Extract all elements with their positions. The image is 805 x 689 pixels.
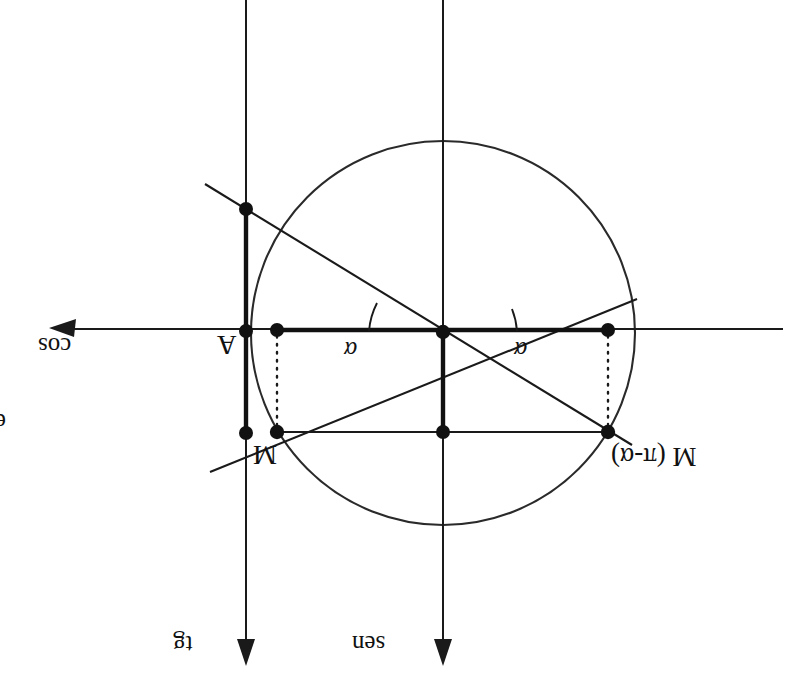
- point-tangent-upper: [239, 202, 253, 216]
- sen-axis-label: sen: [352, 632, 385, 657]
- angle-right-label: α: [514, 338, 527, 363]
- ray-to-M-supplement: [205, 184, 632, 445]
- point-cos-foot-left: [270, 323, 284, 337]
- sen-axis-arrow-icon: [434, 639, 452, 666]
- angle-arc-right: [512, 309, 517, 331]
- point-cos-foot-right: [601, 323, 615, 337]
- cut-off-edge-label: e: [0, 410, 6, 435]
- angle-left-label: α: [344, 338, 357, 363]
- point-origin: [436, 325, 450, 339]
- point-tangent-lower: [239, 426, 253, 440]
- point-a-label: A: [217, 331, 237, 358]
- point-m-supplement-label: M (π-α): [611, 443, 697, 470]
- tg-axis-label: tg: [173, 632, 192, 657]
- point-A: [239, 324, 253, 338]
- angle-arc-left: [369, 303, 377, 331]
- point-sen-foot: [436, 425, 450, 439]
- point-M: [270, 425, 284, 439]
- tg-axis-arrow-icon: [237, 639, 255, 666]
- point-m-label: M: [253, 441, 277, 468]
- point-M-supplement: [601, 425, 615, 439]
- trigonometry-figure: cos tg sen A M M (π-α) α α e: [0, 0, 805, 689]
- figure-canvas: [0, 0, 805, 689]
- cos-axis-label: cos: [38, 334, 71, 359]
